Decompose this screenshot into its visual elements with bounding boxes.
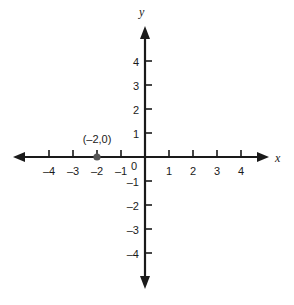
y-axis-bottom-arrow-icon xyxy=(140,276,150,289)
y-tick-label-4: 4 xyxy=(117,57,139,68)
x-axis-label: x xyxy=(275,152,280,164)
x-axis-left-arrow-icon xyxy=(13,152,25,162)
coordinate-axes-svg xyxy=(0,0,294,305)
x-tick-label--4: –4 xyxy=(38,166,60,177)
x-axis-right-arrow-icon xyxy=(257,152,269,162)
y-tick-label-3: 3 xyxy=(117,81,139,92)
x-tick-label--2: –2 xyxy=(86,166,108,177)
coordinate-plane-figure: x y 0 –4 –3 –2 –1 1 2 3 4 4 3 2 1 –1 –2 … xyxy=(0,0,294,305)
y-axis-label: y xyxy=(139,6,144,18)
x-tick-label-1: 1 xyxy=(158,166,180,177)
y-tick-label--2: –2 xyxy=(117,201,139,212)
y-tick-label-2: 2 xyxy=(117,105,139,116)
x-tick-label--3: –3 xyxy=(62,166,84,177)
x-tick-label-2: 2 xyxy=(182,166,204,177)
y-tick-label--4: –4 xyxy=(117,249,139,260)
plotted-point-marker xyxy=(93,153,100,160)
y-tick-label-1: 1 xyxy=(117,129,139,140)
y-axis-top-arrow-icon xyxy=(140,26,150,39)
y-tick-label--3: –3 xyxy=(117,225,139,236)
y-tick-label--1: –1 xyxy=(117,177,139,188)
plotted-point-label: (–2,0) xyxy=(83,134,112,145)
x-tick-label-4: 4 xyxy=(230,166,252,177)
x-tick-label-3: 3 xyxy=(206,166,228,177)
